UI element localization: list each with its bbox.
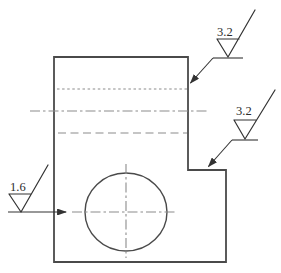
leader-line [209, 140, 233, 167]
leader-line [191, 58, 214, 83]
roughness-callout-left: 1.6 [8, 165, 66, 212]
roughness-value: 3.2 [217, 25, 233, 39]
part-outline [54, 57, 226, 262]
roughness-value: 3.2 [236, 104, 252, 118]
drawing-canvas: 3.2 3.2 1.6 [0, 0, 281, 273]
roughness-value: 1.6 [10, 180, 26, 194]
roughness-callout-middle-right: 3.2 [209, 90, 276, 167]
roughness-callout-top-right: 3.2 [191, 10, 256, 83]
engineering-drawing: 3.2 3.2 1.6 [0, 0, 281, 273]
